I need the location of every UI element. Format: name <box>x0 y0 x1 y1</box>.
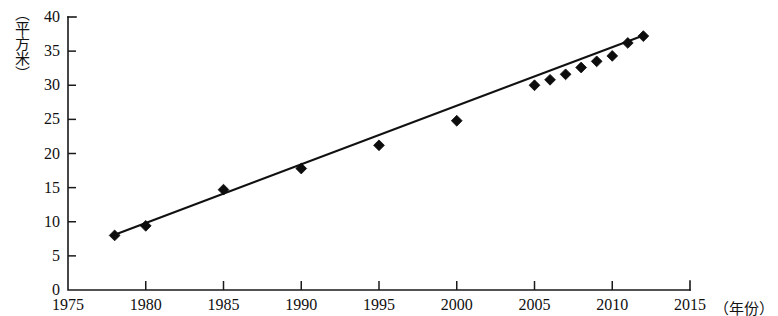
trend-line <box>115 35 644 234</box>
data-point-marker <box>607 51 618 62</box>
data-point-marker <box>374 140 385 151</box>
x-axis-unit-label: （年份） <box>714 297 774 316</box>
chart-container: （平方米） 0510152025303540 19751980198519901… <box>0 0 778 316</box>
x-tick-label: 1980 <box>130 296 162 314</box>
x-tick-label: 2005 <box>519 296 551 314</box>
y-tick-label: 5 <box>26 247 60 265</box>
x-tick-label: 1995 <box>363 296 395 314</box>
y-tick-label: 20 <box>26 145 60 163</box>
x-tick-label: 2010 <box>596 296 628 314</box>
y-tick-label: 35 <box>26 42 60 60</box>
y-tick-label: 30 <box>26 76 60 94</box>
x-tick-label: 2015 <box>674 296 706 314</box>
data-point-marker <box>591 56 602 67</box>
x-tick-label: 1985 <box>208 296 240 314</box>
data-point-marker <box>638 31 649 42</box>
data-point-marker <box>109 230 120 241</box>
data-point-marker <box>218 184 229 195</box>
data-point-marker <box>560 69 571 80</box>
trend-line-group <box>115 35 644 234</box>
y-tick-label: 25 <box>26 110 60 128</box>
x-tick-label: 2000 <box>441 296 473 314</box>
data-point-marker <box>545 74 556 85</box>
x-tick-label: 1975 <box>52 296 84 314</box>
y-tick-label: 15 <box>26 179 60 197</box>
x-tick-label: 1990 <box>285 296 317 314</box>
plot-area <box>0 0 778 316</box>
y-tick-label: 10 <box>26 213 60 231</box>
data-point-marker <box>451 115 462 126</box>
y-tick-label: 40 <box>26 8 60 26</box>
data-point-marker <box>576 62 587 73</box>
data-point-marker <box>529 80 540 91</box>
